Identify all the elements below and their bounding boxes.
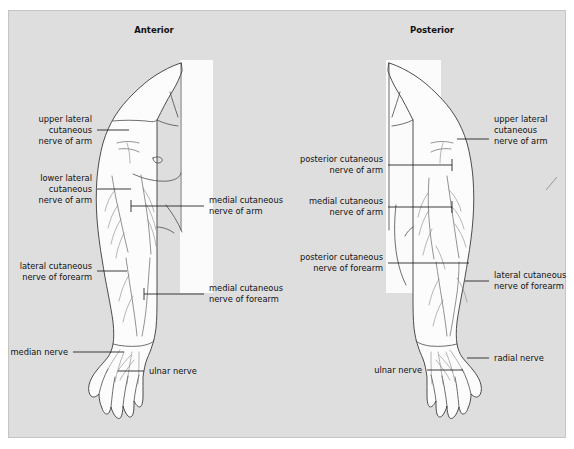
anno-radial-nerve-posterior: radial nerve <box>494 353 544 363</box>
anno-posterior-cutaneous-nerve-of-forearm-posterior: posterior cutaneous nerve of forearm <box>300 252 383 273</box>
anno-line: nerve of arm <box>330 165 384 175</box>
anno-line: upper lateral <box>39 114 93 124</box>
anno-line: nerve of arm <box>39 195 93 205</box>
anterior-torso-band <box>180 60 213 293</box>
anno-ulnar-nerve-anterior: ulnar nerve <box>149 366 197 376</box>
anno-line: nerve of forearm <box>22 272 92 282</box>
anno-line: medial cutaneous <box>309 196 383 206</box>
anno-line: posterior cutaneous <box>300 154 383 164</box>
anno-line: nerve of forearm <box>494 281 564 291</box>
anno-ulnar-nerve-posterior: ulnar nerve <box>374 365 422 375</box>
anno-line: nerve of arm <box>494 136 548 146</box>
anno-line: lower lateral <box>40 173 92 183</box>
anno-line: cutaneous <box>49 184 92 194</box>
anno-line: nerve of arm <box>39 136 93 146</box>
anno-line: medial cutaneous <box>209 195 283 205</box>
anno-line: lateral cutaneous <box>494 270 566 280</box>
anno-median-nerve-anterior: median nerve <box>10 347 68 357</box>
cutaneous-nerves-diagram: Anterior Posterior <box>0 0 574 449</box>
anno-medial-cutaneous-nerve-of-forearm-anterior: medial cutaneous nerve of forearm <box>209 283 283 304</box>
anno-line: nerve of forearm <box>313 263 383 273</box>
view-title-posterior: Posterior <box>410 25 455 35</box>
anno-line: posterior cutaneous <box>300 252 383 262</box>
anatomy-figure: Anterior Posterior <box>0 0 574 449</box>
anno-line: median nerve <box>10 347 68 357</box>
anno-line: nerve of arm <box>209 206 263 216</box>
anno-line: cutaneous <box>49 125 92 135</box>
anno-lateral-cutaneous-nerve-of-forearm-anterior: lateral cutaneous nerve of forearm <box>20 261 92 282</box>
anno-line: nerve of arm <box>330 207 384 217</box>
diagram-panel <box>9 11 566 438</box>
anno-line: nerve of forearm <box>209 294 279 304</box>
anno-lateral-cutaneous-nerve-of-forearm-posterior: lateral cutaneous nerve of forearm <box>494 270 566 291</box>
anno-line: radial nerve <box>494 353 544 363</box>
anno-line: cutaneous <box>494 125 537 135</box>
anno-line: medial cutaneous <box>209 283 283 293</box>
anno-line: ulnar nerve <box>374 365 422 375</box>
anno-line: upper lateral <box>494 114 548 124</box>
anno-line: ulnar nerve <box>149 366 197 376</box>
view-title-anterior: Anterior <box>134 25 174 35</box>
anno-line: lateral cutaneous <box>20 261 92 271</box>
